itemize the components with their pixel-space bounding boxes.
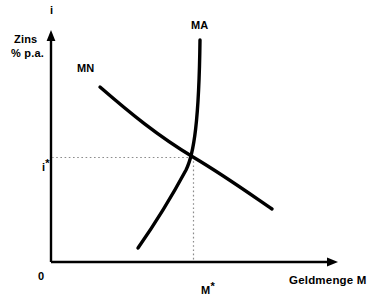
diagram-canvas [0,0,378,304]
money-demand-curve-mn [100,87,272,209]
x-axis-arrowhead-icon [327,258,338,267]
curve-label-mn: MN [77,62,95,75]
equilibrium-quantity-label: M* [188,271,215,304]
y-axis-arrowhead-icon [47,30,56,41]
money-market-diagram: i Zins % p.a. MN MA i* 0 M* Geldmenge M [0,0,378,304]
money-supply-curve-ma [138,40,200,248]
equilibrium-quantity-letter: M [201,284,210,296]
equilibrium-rate-asterisk: * [45,157,49,169]
equilibrium-quantity-asterisk: * [210,280,214,292]
curve-label-ma: MA [191,19,209,32]
origin-label: 0 [38,270,44,283]
y-axis-symbol: i [50,4,53,17]
equilibrium-rate-label: i* [29,148,50,187]
y-axis-label-line2: % p.a. [11,47,44,60]
x-axis-label: Geldmenge M [289,274,367,287]
x-axis [51,258,338,267]
y-axis [47,30,56,262]
y-axis-label-line1: Zins [14,33,37,46]
